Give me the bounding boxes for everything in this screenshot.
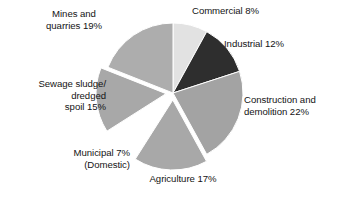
slice-label-agriculture: Agriculture 17%: [118, 173, 248, 185]
slice-label-construction-and-demolition: Construction and demolition 22%: [244, 94, 348, 117]
slice-label-mines-and-quarries: Mines and quarries 19%: [12, 8, 136, 31]
slice-label-municipal: Municipal 7% (Domestic): [6, 147, 130, 170]
slice-label-commercial: Commercial 8%: [192, 5, 332, 17]
pie-chart-figure: Mines and quarries 19% Sewage sludge/ dr…: [0, 0, 348, 197]
slice-label-industrial: Industrial 12%: [224, 38, 348, 50]
slice-label-sewage-sludge: Sewage sludge/ dredged spoil 15%: [2, 78, 106, 113]
